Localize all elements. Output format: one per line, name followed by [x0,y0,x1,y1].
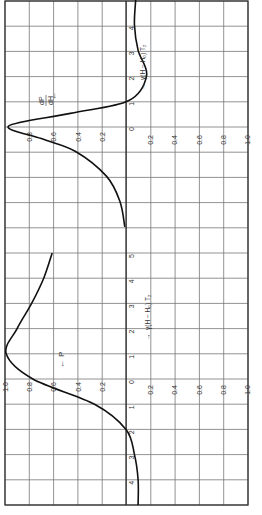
resonance-figure: 012340.20.40.60.80.20.40.60.81.043211234… [0,0,262,515]
top-xlabel: γ(H − H₀) T₂ → [139,44,147,90]
svg-text:γ(H − H₀) T₂: γ(H − H₀) T₂ [144,294,152,330]
tick-label: 0.2 [147,135,154,145]
dpdh-label: dP [38,96,45,105]
tick-label: 1 [128,405,135,409]
svg-text:←: ← [49,92,58,100]
tick-label: 0.6 [50,132,57,142]
tick-label: 1.0 [244,385,251,395]
bottom-ylabel: P ← [57,352,66,368]
top-ylabel-arrow: ← [49,92,58,100]
tick-label: 0.8 [26,132,33,142]
bottom-xlabel: γ(H − H₀) T₂ → [144,294,152,340]
tick-label: 0.2 [99,382,106,392]
tick-label: 0.4 [75,132,82,142]
tick-label: 1 [128,102,135,106]
tick-label: 4 [128,279,135,283]
tick-label: 1.0 [244,135,251,145]
tick-label: 0.2 [99,132,106,142]
tick-label: 0.6 [196,385,203,395]
tick-label: 0.2 [147,385,154,395]
svg-text:→: → [139,83,146,90]
tick-label: 0 [128,380,135,384]
tick-label: 0.8 [220,135,227,145]
tick-label: 0.8 [26,382,33,392]
tick-label: 0.4 [171,385,178,395]
tick-label: 2 [128,330,135,334]
tick-label: 3 [128,304,135,308]
svg-text:P: P [57,352,66,357]
tick-label: 4 [128,481,135,485]
svg-text:→: → [144,333,151,340]
tick-label: 0.8 [220,385,227,395]
tick-label: 0.4 [75,382,82,392]
tick-label: 0.4 [171,135,178,145]
tick-label: 1 [128,355,135,359]
tick-label: 0.6 [196,135,203,145]
svg-text:←: ← [57,360,66,368]
tick-label: 3 [128,456,135,460]
tick-label: 1.0 [2,382,9,392]
tick-label: 5 [128,254,135,258]
tick-label: 0 [128,127,135,131]
svg-text:γ(H − H₀) T₂: γ(H − H₀) T₂ [139,44,147,80]
tick-label: 2 [128,77,135,81]
tick-label: 3 [128,51,135,55]
